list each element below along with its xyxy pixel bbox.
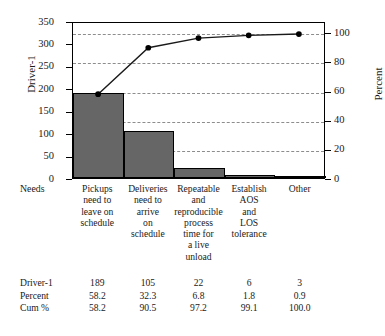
table-cell: 97.2 bbox=[173, 302, 224, 315]
category-label-line: schedule bbox=[124, 228, 173, 239]
table-row-cells: 1891052263 bbox=[72, 277, 325, 290]
category-label: Other bbox=[274, 183, 325, 262]
category-label-line: process bbox=[174, 217, 223, 228]
table-row-label: Driver-1 bbox=[20, 277, 72, 290]
line-marker bbox=[95, 91, 101, 97]
y-tick-label-left: 350 bbox=[14, 17, 54, 27]
category-label-line: need to bbox=[73, 194, 122, 205]
y-tick-mark-right bbox=[325, 121, 331, 122]
category-label-line: leave on bbox=[73, 206, 122, 217]
category-label-line: time for bbox=[174, 228, 223, 239]
y-tick-mark-left bbox=[66, 179, 72, 180]
table-cell: 1.8 bbox=[224, 290, 275, 303]
x-axis-title: Needs bbox=[20, 183, 44, 194]
y-tick-label-left: 250 bbox=[14, 61, 54, 71]
y-axis-title-right: Percent bbox=[372, 54, 384, 114]
y-tick-label-left: 200 bbox=[14, 84, 54, 94]
category-label-line: on bbox=[124, 217, 173, 228]
category-label-line: Establish bbox=[225, 183, 274, 194]
table-cell: 105 bbox=[123, 277, 174, 290]
table-row-cells: 58.290.597.299.1100.0 bbox=[72, 302, 325, 315]
y-tick-label-right: 40 bbox=[334, 115, 345, 125]
category-label-line: LOS bbox=[225, 217, 274, 228]
table-cell: 22 bbox=[173, 277, 224, 290]
y-tick-label-right: 20 bbox=[334, 144, 345, 154]
y-tick-mark-right bbox=[325, 150, 331, 151]
category-label: EstablishAOSandLOStolerance bbox=[224, 183, 275, 262]
line-marker bbox=[196, 35, 202, 41]
table-row-label: Cum % bbox=[20, 302, 72, 315]
y-tick-mark-right bbox=[325, 92, 331, 93]
category-label: Repeatableandreproducibleprocesstime for… bbox=[173, 183, 224, 262]
category-label-line: AOS bbox=[225, 194, 274, 205]
category-label-line: need to bbox=[124, 194, 173, 205]
table-cell: 6.8 bbox=[173, 290, 224, 303]
cumulative-line bbox=[98, 34, 299, 94]
category-label-line: Other bbox=[275, 183, 324, 194]
y-tick-label-left: 50 bbox=[14, 151, 54, 161]
y-tick-mark-right bbox=[325, 179, 331, 180]
category-label: Pickupsneed toleave onschedule bbox=[72, 183, 123, 262]
table-cell: 32.3 bbox=[123, 290, 174, 303]
y-tick-label-left: 0 bbox=[14, 174, 54, 184]
table-cell: 0.9 bbox=[274, 290, 325, 303]
table-cell: 3 bbox=[274, 277, 325, 290]
category-label-line: reproducible bbox=[174, 206, 223, 217]
table-row: Driver-11891052263 bbox=[20, 277, 365, 290]
plot-area bbox=[72, 22, 325, 179]
table-row-cells: 58.232.36.81.80.9 bbox=[72, 290, 325, 303]
y-tick-label-left: 150 bbox=[14, 106, 54, 116]
category-label-line: unload bbox=[174, 251, 223, 262]
category-label-line: arrive bbox=[124, 206, 173, 217]
line-marker bbox=[296, 31, 302, 37]
x-axis-category-labels: Pickupsneed toleave onscheduleDeliveries… bbox=[72, 183, 325, 262]
y-axis-title-left: Driver-1 bbox=[25, 39, 37, 109]
y-tick-mark-right bbox=[325, 62, 331, 63]
line-marker bbox=[145, 45, 151, 51]
table-cell: 189 bbox=[72, 277, 123, 290]
category-label-line: Pickups bbox=[73, 183, 122, 194]
y-tick-label-left: 300 bbox=[14, 39, 54, 49]
table-cell: 6 bbox=[224, 277, 275, 290]
table-cell: 99.1 bbox=[224, 302, 275, 315]
category-label-line: tolerance bbox=[225, 228, 274, 239]
table-cell: 58.2 bbox=[72, 290, 123, 303]
table-cell: 100.0 bbox=[274, 302, 325, 315]
pareto-chart: Driver-1 Percent 350300250200150100500 1… bbox=[0, 0, 385, 336]
y-tick-label-right: 0 bbox=[334, 174, 339, 184]
y-tick-label-left: 100 bbox=[14, 129, 54, 139]
y-tick-label-right: 60 bbox=[334, 86, 345, 96]
y-tick-label-right: 100 bbox=[334, 28, 350, 38]
cumulative-line-series bbox=[73, 23, 324, 178]
category-label-line: Deliveries bbox=[124, 183, 173, 194]
category-label-line: and bbox=[225, 206, 274, 217]
table-cell: 90.5 bbox=[123, 302, 174, 315]
table-row-label: Percent bbox=[20, 290, 72, 303]
line-marker bbox=[246, 33, 252, 39]
category-label-line: and bbox=[174, 194, 223, 205]
category-label-line: Repeatable bbox=[174, 183, 223, 194]
y-tick-mark-right bbox=[325, 33, 331, 34]
category-label-line: schedule bbox=[73, 217, 122, 228]
table-row: Cum %58.290.597.299.1100.0 bbox=[20, 302, 365, 315]
y-tick-label-right: 80 bbox=[334, 57, 345, 67]
category-label-line: a live bbox=[174, 239, 223, 250]
pareto-data-table: Driver-11891052263Percent58.232.36.81.80… bbox=[20, 277, 365, 315]
category-label: Deliveriesneed toarriveonschedule bbox=[123, 183, 174, 262]
table-cell: 58.2 bbox=[72, 302, 123, 315]
table-row: Percent58.232.36.81.80.9 bbox=[20, 290, 365, 303]
